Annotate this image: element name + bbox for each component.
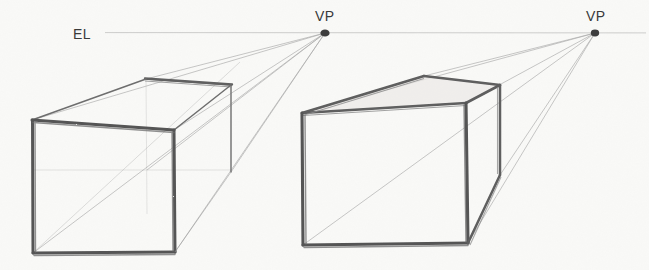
perspective-sketch-page: EL VP VP — [0, 0, 649, 270]
left-box-front-bottom-edge — [33, 252, 175, 253]
vanishing-point-left-label: VP — [315, 8, 334, 24]
vp-left-dot — [320, 29, 329, 36]
right-box-front-left-edge-2 — [305, 115, 306, 244]
vanishing-point-right-label: VP — [586, 8, 605, 24]
right-box-front-bottom-edge — [303, 243, 468, 245]
vp-right-dot — [591, 30, 599, 37]
left-box-front-right-edge-2 — [172, 132, 173, 251]
left-box-front-right-edge — [174, 130, 175, 252]
left-box-front-left-edge — [33, 120, 34, 253]
left-box-front-bottom-edge-2 — [34, 255, 175, 256]
eye-level-label: EL — [73, 26, 91, 42]
perspective-drawing-canvas — [0, 0, 649, 270]
left-box-front-left-edge-2 — [35, 122, 36, 252]
eye-level-line-group — [105, 33, 646, 34]
right-box-front-left-edge — [302, 113, 303, 245]
